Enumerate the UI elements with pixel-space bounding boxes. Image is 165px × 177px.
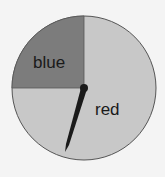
blue-label: blue: [33, 53, 65, 72]
spinner-blue-section: [12, 16, 84, 88]
spinner: blue red: [0, 0, 165, 177]
pointer-pivot-icon: [80, 84, 88, 92]
red-label: red: [95, 100, 120, 119]
